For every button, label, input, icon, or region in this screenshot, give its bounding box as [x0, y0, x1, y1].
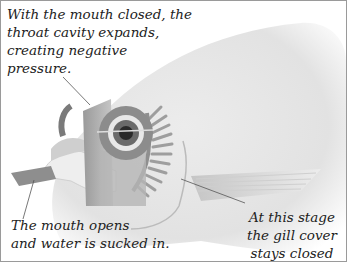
annotation-line: With the mouth closed, the: [7, 5, 207, 23]
annotation-line: the gill cover: [240, 226, 344, 244]
annotation-line: creating negative: [7, 41, 207, 59]
diagram-frame: With the mouth closed, the throat cavity…: [0, 0, 347, 262]
throat-cavity-annotation: With the mouth closed, the throat cavity…: [7, 5, 207, 77]
annotation-line: stays closed: [240, 244, 344, 262]
annotation-line: and water is sucked in.: [11, 234, 181, 252]
annotation-line: throat cavity expands,: [7, 23, 207, 41]
gill-cover-annotation: At this stage the gill cover stays close…: [240, 208, 344, 262]
mouth-annotation: The mouth opens and water is sucked in.: [11, 216, 181, 252]
annotation-line: At this stage: [240, 208, 344, 226]
annotation-line: The mouth opens: [11, 216, 181, 234]
annotation-line: pressure.: [7, 59, 207, 77]
